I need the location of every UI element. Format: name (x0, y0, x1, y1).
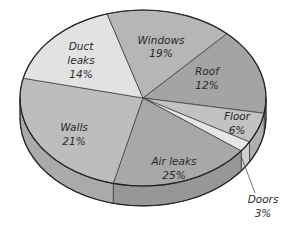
pie-chart: Windows 19% Roof 12% Duct leaks 14% Wall… (0, 0, 288, 240)
label-windows-pct: 19% (149, 47, 172, 59)
label-duct-pct: 14% (69, 68, 92, 80)
label-windows: Windows (137, 34, 185, 46)
label-floor-pct: 6% (229, 124, 246, 136)
label-doors: Doors (248, 193, 279, 205)
label-duct-leaks: leaks (67, 54, 95, 66)
label-roof-pct: 12% (195, 79, 218, 91)
label-duct: Duct (69, 40, 95, 52)
label-walls-pct: 21% (62, 135, 85, 147)
label-floor: Floor (224, 110, 251, 122)
label-walls: Walls (60, 121, 88, 133)
label-roof: Roof (195, 65, 221, 77)
label-doors-pct: 3% (255, 207, 272, 219)
label-air-leaks-pct: 25% (162, 169, 185, 181)
label-air-leaks: Air leaks (150, 155, 197, 167)
